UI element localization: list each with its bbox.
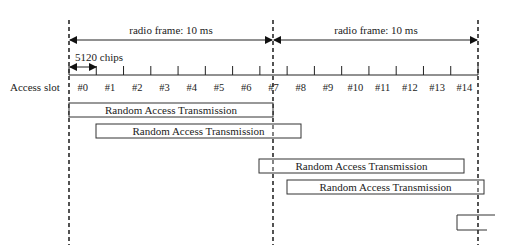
slot-labels: #0#1#2#3#4#5#6#7#8#9#10#11#12#13#14 xyxy=(77,82,473,93)
partial-transmission xyxy=(457,215,495,230)
slot-label: #4 xyxy=(186,82,197,93)
radio-frame-2: radio frame: 10 ms xyxy=(274,24,477,40)
slot-label: #14 xyxy=(456,82,473,93)
radio-frame-1: radio frame: 10 ms xyxy=(70,24,272,40)
transmission-box: Random Access Transmission xyxy=(96,124,301,138)
slot-label: #8 xyxy=(296,82,307,93)
transmission-label: Random Access Transmission xyxy=(295,160,428,172)
frame-1-label: radio frame: 10 ms xyxy=(129,24,212,36)
transmission-box: Random Access Transmission xyxy=(69,103,273,117)
slot-label: #0 xyxy=(77,82,88,93)
slot-label: #10 xyxy=(347,82,363,93)
slot-label: #2 xyxy=(132,82,143,93)
slot-label: #5 xyxy=(214,82,225,93)
diagram-canvas: radio frame: 10 ms radio frame: 10 ms 51… xyxy=(0,0,513,252)
slot-label: #11 xyxy=(375,82,390,93)
random-access-timing-diagram: radio frame: 10 ms radio frame: 10 ms 51… xyxy=(0,0,513,252)
access-slot-label: Access slot xyxy=(10,81,60,93)
transmission-box: Random Access Transmission xyxy=(259,159,464,173)
chip-label: 5120 chips xyxy=(75,51,123,63)
slot-label: #9 xyxy=(323,82,334,93)
slot-label: #1 xyxy=(105,82,116,93)
slot-label: #13 xyxy=(429,82,445,93)
transmission-label: Random Access Transmission xyxy=(105,104,238,116)
partial-transmission-outline xyxy=(457,215,495,230)
transmission-label: Random Access Transmission xyxy=(132,125,265,137)
transmission-label: Random Access Transmission xyxy=(319,181,452,193)
transmissions: Random Access TransmissionRandom Access … xyxy=(69,103,484,194)
frame-2-label: radio frame: 10 ms xyxy=(334,24,417,36)
slot-label: #12 xyxy=(402,82,418,93)
slot-label: #3 xyxy=(159,82,170,93)
chip-duration: 5120 chips xyxy=(70,51,123,67)
slot-label: #6 xyxy=(241,82,252,93)
transmission-box: Random Access Transmission xyxy=(287,180,484,194)
